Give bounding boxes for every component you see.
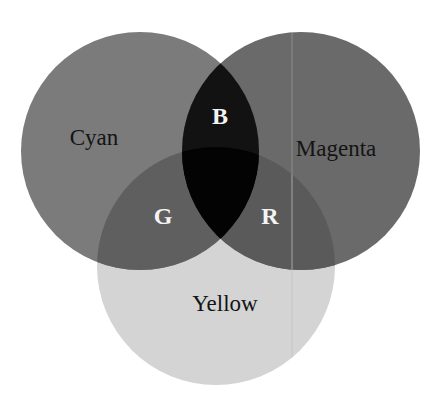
yellow-label: Yellow (192, 291, 258, 316)
cyan-label: Cyan (70, 125, 119, 150)
blue-intersection-label: B (212, 103, 228, 129)
red-intersection-label: R (261, 203, 279, 229)
green-intersection-label: G (154, 203, 173, 229)
venn-diagram: Cyan Magenta Yellow B G R (0, 0, 443, 393)
magenta-label: Magenta (296, 136, 376, 161)
